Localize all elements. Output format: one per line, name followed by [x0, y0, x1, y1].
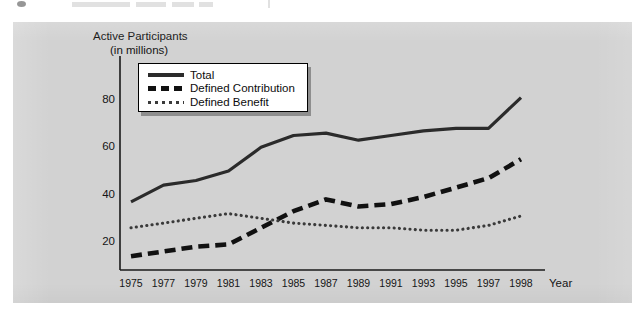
scan-artifact-mark	[268, 0, 270, 8]
scan-artifact-top-strip	[0, 0, 644, 13]
legend-item-label: Total	[190, 69, 214, 81]
scan-artifact-text-fragment	[72, 2, 130, 7]
legend-swatch-solid-line-icon	[147, 69, 185, 81]
scan-artifact-bullet	[17, 1, 26, 7]
scan-artifact-text-fragment	[136, 2, 166, 7]
legend-item-label: Defined Contribution	[190, 82, 295, 94]
chart-legend: TotalDefined ContributionDefined Benefit	[138, 63, 308, 112]
legend-item: Total	[147, 68, 301, 82]
legend-item: Defined Benefit	[147, 95, 301, 109]
series-line-defined-contribution	[131, 159, 521, 256]
scan-artifact-text-fragment	[172, 2, 194, 7]
series-line-defined-benefit	[131, 214, 521, 231]
legend-item-label: Defined Benefit	[190, 96, 269, 108]
legend-item: Defined Contribution	[147, 82, 301, 96]
plot-area	[13, 22, 632, 303]
legend-swatch-dotted-line-icon	[147, 96, 185, 108]
legend-swatch-dashed-line-icon	[147, 82, 185, 94]
chart-panel: Active Participants (in millions) 806040…	[13, 22, 632, 303]
scan-artifact-text-fragment	[199, 2, 213, 7]
series-lines	[131, 98, 521, 257]
